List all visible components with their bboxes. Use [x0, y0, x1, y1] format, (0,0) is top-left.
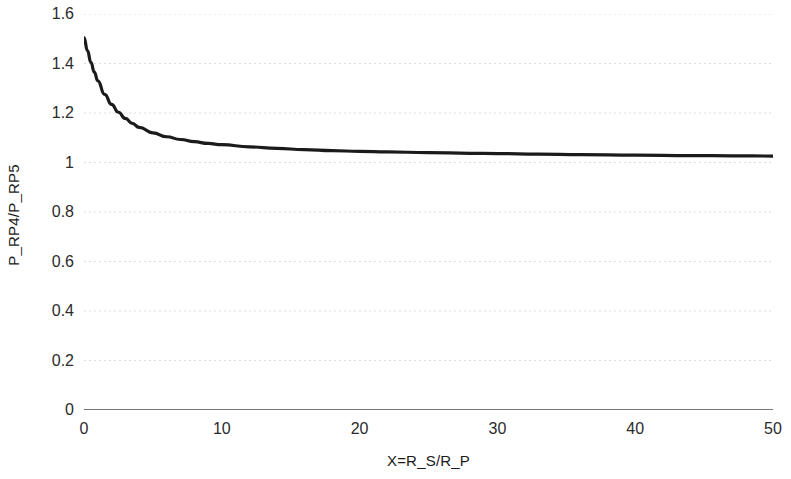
y-tick-label: 1.6 — [18, 5, 74, 23]
y-tick-label: 1.2 — [18, 104, 74, 122]
y-tick-label: 1 — [18, 154, 74, 172]
x-tick-label: 0 — [80, 420, 89, 438]
x-tick-label: 30 — [488, 420, 506, 438]
plot-svg — [84, 14, 773, 410]
x-tick-label: 40 — [626, 420, 644, 438]
y-axis-tick-labels: 00.20.40.60.811.21.41.6 — [10, 0, 74, 479]
y-tick-label: 1.4 — [18, 55, 74, 73]
x-tick-label: 10 — [213, 420, 231, 438]
plot-area — [84, 14, 773, 410]
x-tick-label: 20 — [351, 420, 369, 438]
y-tick-label: 0.8 — [18, 203, 74, 221]
y-tick-label: 0 — [18, 401, 74, 419]
series-line-0 — [84, 38, 773, 157]
y-tick-label: 0.6 — [18, 253, 74, 271]
data-series — [84, 38, 773, 157]
y-tick-label: 0.4 — [18, 302, 74, 320]
y-tick-label: 0.2 — [18, 352, 74, 370]
chart-figure: P_RP4/P_RP5 00.20.40.60.811.21.41.6 0102… — [0, 0, 791, 479]
grid-lines — [84, 14, 773, 361]
x-axis-title: X=R_S/R_P — [84, 452, 773, 469]
x-tick-label: 50 — [764, 420, 782, 438]
